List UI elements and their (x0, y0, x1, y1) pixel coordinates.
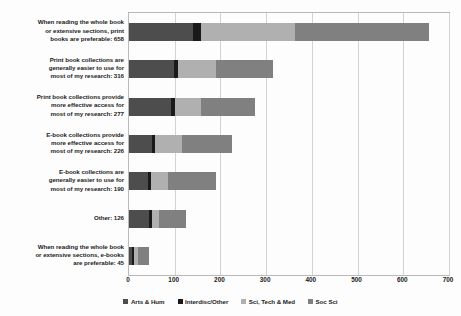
x-tick-label-300: 300 (250, 276, 280, 283)
category-label: E-book collections provide more effectiv… (2, 131, 124, 156)
bar-row (129, 172, 449, 190)
category-label: Print book collections are generally eas… (2, 56, 124, 81)
bar-row (129, 247, 449, 265)
x-tick-label-100: 100 (159, 276, 189, 283)
category-label: Other: 126 (2, 214, 124, 222)
category-label: Print book collections provide more effe… (2, 93, 124, 118)
legend-item[interactable]: Interdisc/Other (178, 298, 229, 305)
bar-segment-interdisc-other (193, 23, 201, 41)
legend-swatch-icon (123, 299, 128, 304)
x-tick-label-0: 0 (113, 276, 143, 283)
x-tick-label-200: 200 (204, 276, 234, 283)
x-tick-label-400: 400 (296, 276, 326, 283)
category-label: When reading the whole book or extensive… (2, 18, 124, 43)
bar-segment-arts-hum (129, 23, 193, 41)
bar-row (129, 98, 449, 116)
bar-segment-soc-sci (216, 60, 273, 78)
bar-segment-arts-hum (129, 210, 149, 228)
bar-segment-soc-sci (168, 172, 216, 190)
legend-item[interactable]: Sci, Tech & Med (241, 298, 295, 305)
x-tick-label-700: 700 (433, 276, 461, 283)
bar-segment-sci-tech-med (175, 98, 201, 116)
legend-swatch-icon (308, 299, 313, 304)
bar-row (129, 135, 449, 153)
stacked-bar-chart: When reading the whole book or extensive… (0, 0, 461, 316)
bar-row (129, 23, 449, 41)
bar-segment-arts-hum (129, 60, 174, 78)
bar-segment-soc-sci (138, 247, 149, 265)
bar-row (129, 210, 449, 228)
bar-segment-sci-tech-med (155, 135, 182, 153)
legend-swatch-icon (241, 299, 246, 304)
gridline-700 (449, 13, 450, 275)
legend-label: Arts & Hum (131, 298, 165, 305)
x-tick-label-600: 600 (387, 276, 417, 283)
bar-row (129, 60, 449, 78)
bar-segment-arts-hum (129, 172, 148, 190)
bar-segment-soc-sci (182, 135, 232, 153)
bar-segment-arts-hum (129, 135, 152, 153)
category-labels-axis: When reading the whole book or extensive… (2, 12, 124, 274)
legend-label: Interdisc/Other (185, 298, 228, 305)
plot-area (128, 12, 450, 276)
bar-segment-soc-sci (295, 23, 429, 41)
bar-segment-sci-tech-med (151, 172, 168, 190)
category-label: When reading the whole book or extensive… (2, 243, 124, 268)
bar-segment-sci-tech-med (152, 210, 159, 228)
bar-segment-sci-tech-med (178, 60, 216, 78)
x-tick-label-500: 500 (342, 276, 372, 283)
legend-label: Soc Sci (316, 298, 338, 305)
category-label: E-book collections are generally easier … (2, 168, 124, 193)
bar-segment-sci-tech-med (201, 23, 295, 41)
x-axis-tick-labels: 0100200300400500600700 (128, 276, 450, 288)
legend-label: Sci, Tech & Med (249, 298, 295, 305)
chart-legend: Arts & HumInterdisc/OtherSci, Tech & Med… (0, 294, 461, 308)
legend-swatch-icon (178, 299, 183, 304)
bar-segment-arts-hum (129, 98, 171, 116)
legend-item[interactable]: Soc Sci (308, 298, 338, 305)
bar-segment-soc-sci (201, 98, 255, 116)
bar-segment-soc-sci (159, 210, 186, 228)
legend-item[interactable]: Arts & Hum (123, 298, 164, 305)
